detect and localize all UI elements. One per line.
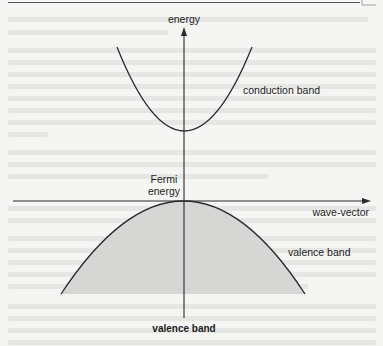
valence-band-label: valence band	[288, 246, 350, 258]
page-corner-bracket	[362, 0, 376, 5]
fermi-energy-label-line2: energy	[148, 185, 180, 197]
energy-axis-arrowhead-icon	[181, 27, 187, 36]
band-diagram	[0, 0, 383, 346]
conduction-band-label: conduction band	[243, 84, 320, 96]
valence-band-caption: valence band	[152, 323, 215, 335]
energy-axis-label: energy	[168, 13, 200, 25]
fermi-energy-label-line1: Fermi	[151, 173, 178, 185]
wave-vector-axis-arrowhead-icon	[362, 198, 371, 204]
wave-vector-axis-label: wave-vector	[312, 206, 369, 218]
